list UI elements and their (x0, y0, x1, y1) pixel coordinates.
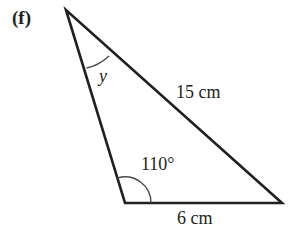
part-label: (f) (12, 8, 31, 27)
side-label-hypotenuse: 15 cm (176, 83, 221, 101)
triangle-diagram: (f) y 15 cm 110° 6 cm (0, 0, 292, 243)
angle-label-y: y (99, 67, 107, 85)
triangle-outline (66, 10, 282, 203)
side-label-base: 6 cm (177, 209, 213, 227)
triangle-figure (0, 0, 292, 243)
angle-label-110: 110° (141, 155, 175, 173)
